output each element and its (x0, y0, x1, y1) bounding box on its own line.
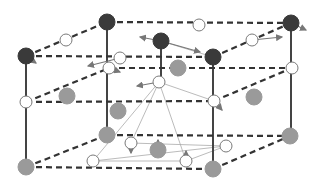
gray-atom (110, 103, 126, 119)
gray-atom (170, 60, 186, 76)
white-atom (87, 155, 99, 167)
gray-atom (18, 159, 34, 175)
gray-atom (59, 88, 75, 104)
dashed-bond (26, 101, 214, 102)
dark-atom (99, 14, 115, 30)
white-atom (153, 76, 165, 88)
coordination-line (159, 82, 214, 101)
coordination-line (131, 143, 226, 146)
dark-atom (18, 48, 34, 64)
white-atom (180, 155, 192, 167)
white-atom (114, 52, 126, 64)
dark-atom (153, 33, 169, 49)
crystal-structure-diagram (0, 0, 321, 187)
gray-atom (282, 128, 298, 144)
gray-atom (150, 142, 166, 158)
dark-atom (205, 49, 221, 65)
coordination-line (131, 82, 159, 143)
white-atom (125, 137, 137, 149)
white-atom (193, 19, 205, 31)
white-atom (103, 62, 115, 74)
coordination-line (93, 82, 159, 161)
white-atom (60, 34, 72, 46)
white-atom (286, 62, 298, 74)
gray-atom (205, 161, 221, 177)
white-atom (220, 140, 232, 152)
white-atom (20, 96, 32, 108)
dark-atom (283, 15, 299, 31)
crystal-lattice-svg (0, 0, 321, 187)
gray-atom (246, 89, 262, 105)
white-atom (208, 95, 220, 107)
atoms (18, 14, 299, 177)
white-atom (246, 34, 258, 46)
gray-atom (99, 127, 115, 143)
